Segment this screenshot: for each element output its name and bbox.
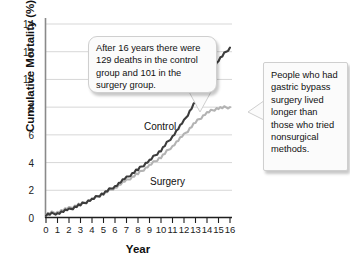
callout-outcome: People who had gastric bypass surgery li… — [263, 62, 348, 171]
callout-deaths: After 16 years there were 129 deaths in … — [88, 36, 217, 93]
series-label-control: Control — [144, 121, 176, 132]
axis-ticks — [46, 218, 230, 223]
series-label-surgery: Surgery — [150, 176, 185, 187]
mortality-line-chart: Cumulative Mortality (%) Year 0 2 4 6 8 … — [0, 0, 350, 264]
series-line-surgery — [46, 106, 230, 215]
callout-deaths-tail — [186, 88, 220, 122]
